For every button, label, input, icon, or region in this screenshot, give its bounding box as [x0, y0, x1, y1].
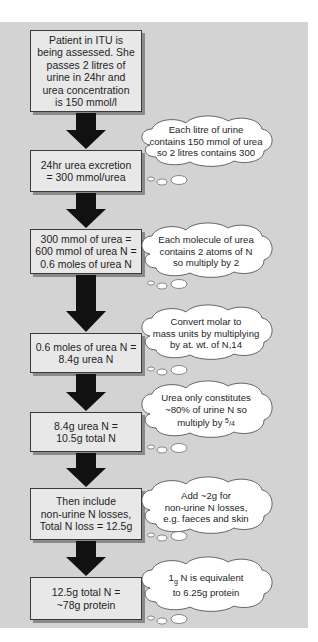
- cloud-text-6-main: N is equivalent to 6.25g protein: [173, 572, 244, 598]
- step-text-5: 8.4g urea N = 10.5g total N: [54, 420, 118, 445]
- cloud-text-5: Add ~2g for non-urine N losses, e.g. fae…: [136, 490, 276, 525]
- step-box-6: Then include non-urine N losses, Total N…: [30, 488, 142, 540]
- step-text-7: 12.5g total N = ~78g protein: [52, 586, 121, 611]
- thought-cloud-1: Each litre of urine contains 150 mmol of…: [136, 115, 276, 167]
- step-box-3: 300 mmol of urea = 600 mmol of urea N = …: [30, 229, 142, 274]
- cloud-text-6: 1g N is equivalent to 6.25g protein: [136, 572, 276, 599]
- step-text-3: 300 mmol of urea = 600 mmol of urea N = …: [35, 233, 136, 271]
- down-arrow-icon: [65, 541, 107, 577]
- step-box-5: 8.4g urea N = 10.5g total N: [30, 412, 142, 452]
- thought-cloud-6: 1g N is equivalent to 6.25g protein: [136, 556, 276, 612]
- thought-bubbles-icon: [146, 614, 192, 626]
- step-box-4: 0.6 moles of urea N = 8.4g urea N: [30, 333, 142, 373]
- thought-cloud-2: Each molecule of urea contains 2 atoms o…: [136, 222, 276, 278]
- thought-bubbles-icon: [146, 443, 192, 455]
- thought-bubbles-icon: [146, 365, 192, 377]
- cropped-caption-fragment: [0, 633, 318, 642]
- thought-cloud-5: Add ~2g for non-urine N losses, e.g. fae…: [136, 476, 276, 534]
- thought-bubbles-icon: [146, 531, 192, 543]
- cloud-text-4-main: Urea only constitutes ~80% of urine N so…: [161, 392, 251, 428]
- down-arrow-icon: [65, 193, 107, 229]
- thought-bubbles-icon: [146, 175, 192, 187]
- step-text-1: Patient in ITU is being assessed. She pa…: [37, 34, 134, 109]
- thought-cloud-3: Convert molar to mass units by multiplyi…: [136, 304, 276, 360]
- cloud-text-4: Urea only constitutes ~80% of urine N so…: [136, 392, 276, 430]
- thought-cloud-4: Urea only constitutes ~80% of urine N so…: [136, 380, 276, 438]
- step-text-6: Then include non-urine N losses, Total N…: [40, 495, 133, 533]
- thought-bubbles-icon: [146, 279, 192, 291]
- down-arrow-icon: [65, 275, 107, 333]
- cloud-text-3: Convert molar to mass units by multiplyi…: [136, 316, 276, 351]
- step-box-2: 24hr urea excretion = 300 mmol/urea: [30, 150, 142, 192]
- down-arrow-icon: [65, 453, 107, 488]
- down-arrow-icon: [65, 113, 107, 150]
- cloud-text-2: Each molecule of urea contains 2 atoms o…: [136, 234, 276, 269]
- step-box-1: Patient in ITU is being assessed. She pa…: [30, 30, 142, 112]
- step-box-7: 12.5g total N = ~78g protein: [30, 577, 142, 620]
- down-arrow-icon: [65, 374, 107, 412]
- fraction-denominator: /4: [229, 420, 235, 427]
- cloud-text-1: Each litre of urine contains 150 mmol of…: [136, 124, 276, 159]
- step-text-4: 0.6 moles of urea N = 8.4g urea N: [36, 341, 137, 366]
- step-text-2: 24hr urea excretion = 300 mmol/urea: [41, 159, 131, 184]
